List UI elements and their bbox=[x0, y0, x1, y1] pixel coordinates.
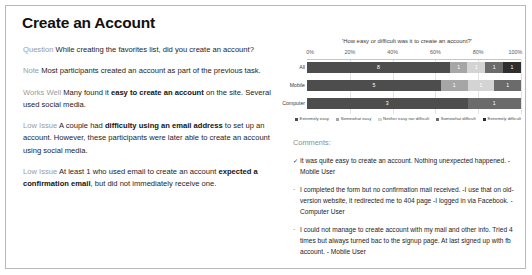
comment-text: It was quite easy to create an account. … bbox=[300, 157, 510, 175]
chart-segment-value: 1 bbox=[479, 83, 482, 88]
chart-bar-row: 81111 bbox=[307, 62, 521, 73]
legend-label: Somewhat easy bbox=[341, 117, 372, 121]
comments-heading: Comments: bbox=[293, 138, 521, 147]
legend-swatch-icon bbox=[483, 118, 486, 121]
chart-category-label: Mobile bbox=[290, 82, 305, 88]
left-content-column: Question While creating the favorites li… bbox=[23, 44, 275, 191]
chart-segment-value: 1 bbox=[493, 101, 496, 106]
chart-bar-segment: 3 bbox=[307, 98, 468, 109]
chart-bar-segment: 1 bbox=[485, 62, 503, 73]
chart-legend-item: Neither easy nor difficult bbox=[378, 117, 429, 121]
chart-x-axis-ticks: 0%20%40%60%80%100% bbox=[307, 49, 521, 58]
comment-bullet-icon: · bbox=[293, 225, 295, 235]
right-content-column: 'How easy or difficult was it to create … bbox=[293, 38, 521, 136]
legend-label: Neither easy nor difficult bbox=[383, 117, 429, 121]
chart-bar-segment: 5 bbox=[307, 80, 441, 91]
finding-tag: Works Well bbox=[23, 88, 63, 97]
finding-text: While creating the favorites list, did y… bbox=[56, 45, 254, 54]
chart-legend: Extremely easySomewhat easyNeither easy … bbox=[295, 117, 521, 121]
chart-bar-segment: 1 bbox=[494, 80, 521, 91]
finding-paragraph: Question While creating the favorites li… bbox=[23, 44, 275, 56]
chart-bar-segment: 1 bbox=[467, 62, 485, 73]
legend-swatch-icon bbox=[295, 118, 298, 121]
comment-bullet-icon: · bbox=[293, 185, 295, 195]
page-title: Create an Account bbox=[22, 14, 155, 32]
finding-tag: Note bbox=[23, 66, 41, 75]
finding-text: At least 1 who used email to create an a… bbox=[59, 167, 219, 176]
chart-segment-value: 1 bbox=[493, 65, 496, 70]
legend-label: Extremely easy bbox=[300, 117, 329, 121]
comment-text: I completed the form but no confirmation… bbox=[300, 186, 514, 214]
finding-text: Many found it bbox=[63, 88, 111, 97]
comment-item: ·I could not manage to create account wi… bbox=[293, 225, 521, 257]
chart-bar-row: 5111 bbox=[307, 80, 521, 91]
chart-segment-value: 1 bbox=[511, 65, 514, 70]
finding-tag: Question bbox=[23, 45, 56, 54]
legend-swatch-icon bbox=[336, 118, 339, 121]
chart-bar-segment: 1 bbox=[450, 62, 468, 73]
x-axis-tick-label: 0% bbox=[306, 49, 314, 55]
comment-item: ✓It was quite easy to create an account.… bbox=[293, 156, 521, 177]
chart-segment-value: 1 bbox=[457, 65, 460, 70]
finding-text: Most participants created an account as … bbox=[41, 66, 261, 75]
x-axis-tick-label: 80% bbox=[473, 49, 484, 55]
chart-segment-value: 1 bbox=[475, 65, 478, 70]
finding-emphasis: difficulty using an email address bbox=[105, 121, 223, 130]
legend-label: Somewhat difficult bbox=[441, 117, 476, 121]
x-axis-tick-label: 60% bbox=[430, 49, 441, 55]
chart-bar-segment: 1 bbox=[468, 80, 495, 91]
finding-tag: Low Issue bbox=[23, 121, 59, 130]
chart-segment-value: 3 bbox=[386, 101, 389, 106]
chart-legend-item: Somewhat easy bbox=[336, 117, 371, 121]
finding-emphasis: easy to create an account bbox=[111, 88, 204, 97]
chart-plot-area: 81111511131 bbox=[307, 59, 521, 114]
chart-category-label: Computer bbox=[282, 100, 305, 106]
finding-tag: Low Issue bbox=[23, 167, 59, 176]
comment-bullet-icon: ✓ bbox=[293, 156, 298, 166]
finding-paragraph: Works Well Many found it easy to create … bbox=[23, 87, 275, 112]
x-axis-tick-label: 20% bbox=[344, 49, 355, 55]
legend-label: Extremely difficult bbox=[487, 117, 521, 121]
finding-text: , but did not immediately receive one. bbox=[91, 179, 217, 188]
legend-swatch-icon bbox=[436, 118, 439, 121]
chart-bar-segment: 1 bbox=[441, 80, 468, 91]
chart-segment-value: 5 bbox=[372, 83, 375, 88]
chart-legend-item: Extremely difficult bbox=[483, 117, 521, 121]
slide-container: Create an Account Question While creatin… bbox=[5, 5, 526, 269]
stacked-bar-chart: 'How easy or difficult was it to create … bbox=[293, 38, 521, 136]
comments-section: Comments: ✓It was quite easy to create a… bbox=[293, 138, 521, 257]
chart-title: 'How easy or difficult was it to create … bbox=[293, 38, 521, 44]
comments-list: ✓It was quite easy to create an account.… bbox=[293, 156, 521, 257]
chart-bar-segment: 1 bbox=[503, 62, 521, 73]
chart-segment-value: 1 bbox=[453, 83, 456, 88]
finding-paragraph: Low Issue A couple had difficulty using … bbox=[23, 120, 275, 157]
comment-text: I could not manage to create account wit… bbox=[300, 226, 513, 254]
finding-paragraph: Low Issue At least 1 who used email to c… bbox=[23, 166, 275, 191]
chart-legend-item: Extremely easy bbox=[295, 117, 329, 121]
chart-legend-item: Somewhat difficult bbox=[436, 117, 475, 121]
finding-paragraph: Note Most participants created an accoun… bbox=[23, 65, 275, 77]
chart-segment-value: 1 bbox=[506, 83, 509, 88]
legend-swatch-icon bbox=[378, 118, 381, 121]
chart-segment-value: 8 bbox=[377, 65, 380, 70]
comment-item: ·I completed the form but no confirmatio… bbox=[293, 185, 521, 217]
chart-category-label: All bbox=[299, 64, 305, 70]
chart-gridline bbox=[521, 60, 522, 114]
chart-bar-segment: 1 bbox=[468, 98, 522, 109]
finding-text: A couple had bbox=[59, 121, 105, 130]
chart-category-labels: AllMobileComputer bbox=[293, 59, 306, 113]
x-axis-tick-label: 40% bbox=[387, 49, 398, 55]
chart-bar-segment: 8 bbox=[307, 62, 450, 73]
x-axis-tick-label: 100% bbox=[509, 49, 523, 55]
chart-bar-row: 31 bbox=[307, 98, 521, 109]
